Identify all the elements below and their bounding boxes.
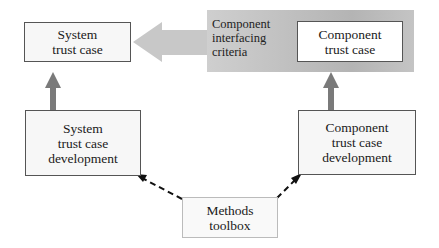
methods-toolbox-node: Methods toolbox <box>182 197 278 238</box>
wide-arrow-left <box>133 22 207 62</box>
component-development-label: Component trust case development <box>322 120 392 165</box>
up-arrow-component <box>323 72 339 110</box>
dashed-arrow-to-component-dev <box>277 180 295 198</box>
system-trust-case-label: System trust case <box>52 27 103 57</box>
component-development-node: Component trust case development <box>298 110 416 175</box>
system-trust-case-node: System trust case <box>24 22 131 62</box>
system-development-node: System trust case development <box>25 110 141 176</box>
component-trust-case-label: Component trust case <box>319 27 382 57</box>
up-arrow-system <box>45 72 61 110</box>
system-development-label: System trust case development <box>48 121 118 166</box>
component-trust-case-node: Component trust case <box>297 21 403 62</box>
dashed-arrow-to-system-dev <box>142 178 182 199</box>
methods-toolbox-label: Methods toolbox <box>206 203 253 233</box>
